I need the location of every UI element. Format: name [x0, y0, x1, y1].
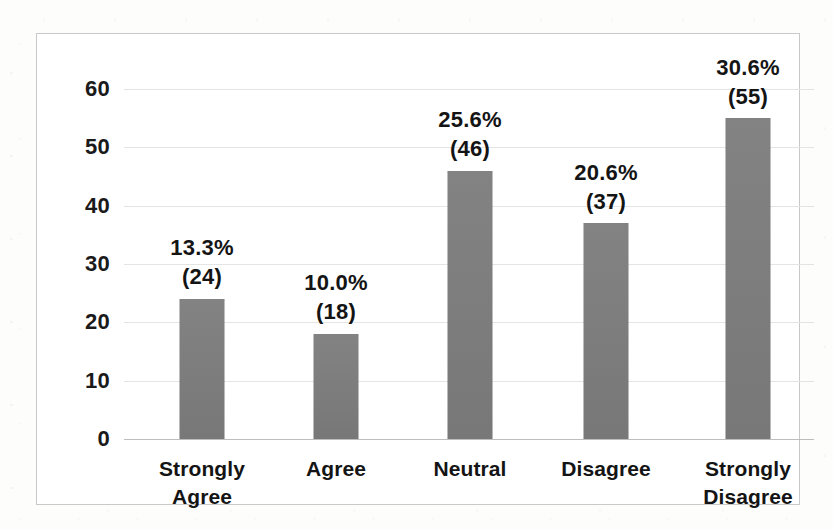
category-label-disagree: Disagree [531, 455, 681, 483]
bar-percent-strongly-disagree: 30.6% [716, 53, 779, 82]
plot-area: 60 50 40 30 20 10 0 13.3% (24) Stron [124, 89, 814, 439]
bar-disagree[interactable] [584, 223, 629, 439]
bar-label-neutral: 25.6% (46) [438, 105, 501, 163]
category-label-line2-strongly-agree: Agree [127, 483, 277, 511]
category-label-line1-strongly-agree: Strongly [159, 457, 245, 480]
ytick-label-0: 0 [97, 426, 110, 452]
bar-count-strongly-disagree: (55) [716, 82, 779, 111]
bar-neutral[interactable] [448, 171, 493, 439]
ytick-label-60: 60 [85, 76, 110, 102]
ytick-label-10: 10 [85, 368, 110, 394]
bar-label-agree: 10.0% (18) [304, 268, 367, 326]
ytick-label-20: 20 [85, 309, 110, 335]
category-label-strongly-agree: Strongly Agree [127, 455, 277, 512]
category-label-agree: Agree [261, 455, 411, 483]
chart-frame: 60 50 40 30 20 10 0 13.3% (24) Stron [36, 33, 800, 505]
bar-strongly-disagree[interactable] [726, 118, 771, 439]
category-label-line2-strongly-disagree: Disagree [673, 483, 823, 511]
category-label-line1-disagree: Disagree [561, 457, 651, 480]
bar-percent-strongly-agree: 13.3% [170, 233, 233, 262]
bar-percent-disagree: 20.6% [574, 158, 637, 187]
bar-label-disagree: 20.6% (37) [574, 158, 637, 216]
bar-count-disagree: (37) [574, 187, 637, 216]
category-label-line1-strongly-disagree: Strongly [705, 457, 791, 480]
category-label-neutral: Neutral [395, 455, 545, 483]
bar-label-strongly-agree: 13.3% (24) [170, 233, 233, 291]
bar-count-strongly-agree: (24) [170, 262, 233, 291]
bar-agree[interactable] [314, 334, 359, 439]
category-label-line1-agree: Agree [306, 457, 366, 480]
bar-count-neutral: (46) [438, 134, 501, 163]
ytick-label-30: 30 [85, 251, 110, 277]
bar-strongly-agree[interactable] [180, 299, 225, 439]
bar-percent-agree: 10.0% [304, 268, 367, 297]
ytick-label-40: 40 [85, 193, 110, 219]
ytick-label-50: 50 [85, 134, 110, 160]
bar-percent-neutral: 25.6% [438, 105, 501, 134]
category-label-strongly-disagree: Strongly Disagree [673, 455, 823, 512]
bar-label-strongly-disagree: 30.6% (55) [716, 53, 779, 111]
gridline-60: 60 [124, 89, 814, 90]
bar-count-agree: (18) [304, 297, 367, 326]
axis-baseline-0: 0 [124, 439, 814, 440]
category-label-line1-neutral: Neutral [433, 457, 506, 480]
